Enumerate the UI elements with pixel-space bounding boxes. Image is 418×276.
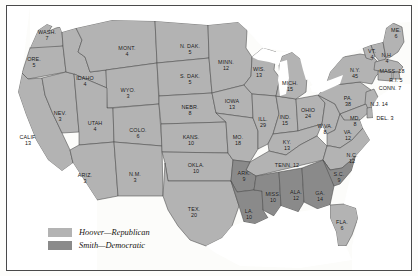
democratic-swatch [48, 241, 72, 250]
republican-swatch [48, 228, 72, 237]
state-colorado [113, 104, 162, 146]
state-oklahoma [162, 152, 233, 181]
state-montana [76, 20, 157, 72]
state-massachusetts [374, 59, 403, 72]
state-connecticut [378, 71, 392, 81]
state-wyoming [106, 63, 159, 108]
legend-item-democratic: Smith—Democratic [48, 241, 150, 250]
election-map-figure: WASH.7ORE.5IDAHO4MONT.4WYO.3NEV.3UTAH4CO… [0, 0, 418, 276]
state-northdakota [155, 21, 209, 63]
state-minnesota [208, 22, 252, 93]
state-newmexico [114, 142, 163, 196]
state-kansas [161, 122, 228, 153]
legend-label-republican: Hoover—Republican [79, 228, 150, 237]
state-alabama [279, 168, 304, 212]
state-rhodeisland [393, 72, 400, 79]
map-legend: Hoover—Republican Smith—Democratic [48, 228, 150, 250]
state-delaware [367, 107, 373, 118]
legend-item-republican: Hoover—Republican [48, 228, 150, 237]
state-maine [383, 23, 404, 58]
state-southdakota [157, 58, 212, 96]
legend-label-democratic: Smith—Democratic [79, 241, 145, 250]
